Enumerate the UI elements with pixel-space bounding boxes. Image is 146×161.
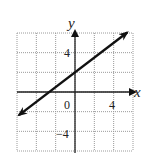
y-axis-label: y <box>66 15 75 31</box>
coordinate-plane: y x 0 4 4 −4 <box>0 0 146 161</box>
y-tick-neg4: −4 <box>56 127 69 141</box>
x-tick-4: 4 <box>109 98 115 112</box>
axes <box>17 31 135 153</box>
y-tick-4: 4 <box>64 46 70 60</box>
origin-label: 0 <box>64 98 70 112</box>
x-axis-label: x <box>133 84 141 100</box>
